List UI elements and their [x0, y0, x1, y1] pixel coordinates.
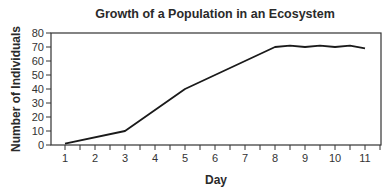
y-tick-label: 40: [32, 83, 44, 95]
plot-frame: [51, 33, 381, 145]
x-tick-label: 7: [242, 152, 248, 164]
y-axis-label: Number of Individuals: [9, 26, 23, 152]
y-tick-label: 70: [32, 41, 44, 53]
y-tick-label: 20: [32, 111, 44, 123]
y-tick-label: 60: [32, 55, 44, 67]
x-tick-label: 8: [272, 152, 278, 164]
x-tick-label: 2: [92, 152, 98, 164]
y-tick-label: 0: [38, 139, 44, 151]
x-axis-label: Day: [205, 173, 227, 187]
y-tick-label: 50: [32, 69, 44, 81]
y-tick-label: 10: [32, 125, 44, 137]
y-tick-label: 30: [32, 97, 44, 109]
x-tick-label: 10: [329, 152, 341, 164]
x-tick-label: 4: [152, 152, 158, 164]
chart-title: Growth of a Population in an Ecosystem: [95, 7, 335, 21]
x-tick-label: 3: [122, 152, 128, 164]
y-tick-label: 80: [32, 27, 44, 39]
x-tick-label: 11: [359, 152, 370, 164]
x-tick-label: 6: [212, 152, 218, 164]
population-line: [65, 46, 365, 144]
y-axis-ticks: 01020304050607080: [32, 27, 51, 151]
x-axis-ticks: 1234567891011: [62, 145, 380, 164]
line-chart: Growth of a Population in an Ecosystem N…: [0, 0, 389, 195]
x-tick-label: 9: [302, 152, 308, 164]
x-tick-label: 5: [182, 152, 188, 164]
x-tick-label: 1: [62, 152, 68, 164]
